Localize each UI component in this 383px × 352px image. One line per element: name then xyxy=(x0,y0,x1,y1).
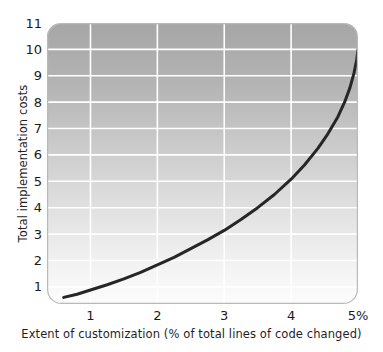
x-tick-label: 3 xyxy=(220,309,228,323)
x-tick-label: 5% xyxy=(348,309,369,323)
x-tick-label: 4 xyxy=(287,309,295,323)
chart-figure: Total implementation costs 1234567891011 xyxy=(0,0,383,352)
x-tick-label: 1 xyxy=(86,309,94,323)
x-axis-tick-labels: 12345% xyxy=(0,0,383,352)
x-axis-title: Extent of customization (% of total line… xyxy=(0,327,383,341)
x-tick-label: 2 xyxy=(153,309,161,323)
